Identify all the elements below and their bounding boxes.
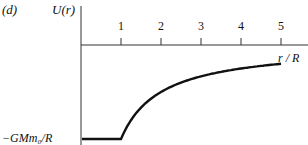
- potential-curve: [82, 64, 281, 139]
- x-ticks: [121, 38, 281, 45]
- chart-plot: [0, 0, 308, 145]
